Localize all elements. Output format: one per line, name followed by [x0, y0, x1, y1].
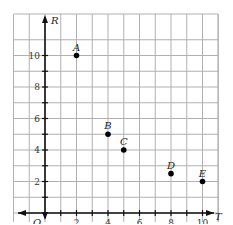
tick-marks: 246810246810 [29, 51, 209, 225]
x-tick-label: 6 [137, 218, 143, 224]
point-marker-icon [121, 147, 127, 153]
y-tick-label: 10 [29, 51, 41, 61]
point-label: A [72, 42, 80, 53]
y-tick-label: 2 [34, 177, 40, 187]
x-axis-arrow-right-icon [206, 210, 214, 216]
point-label: E [198, 168, 207, 179]
x-tick-label: 2 [74, 218, 80, 224]
x-tick-label: 8 [168, 218, 174, 224]
point-label: B [103, 120, 111, 131]
origin-label: O [33, 217, 41, 224]
y-axis-arrow-down-icon [42, 212, 48, 220]
point-marker-icon [105, 131, 111, 137]
y-tick-label: 6 [34, 114, 40, 124]
point-marker-icon [200, 179, 206, 185]
point-label: D [166, 160, 175, 171]
axes: RTO [18, 15, 223, 224]
x-tick-label: 4 [105, 218, 111, 224]
x-axis-label: T [215, 211, 223, 222]
point-label: C [120, 136, 128, 147]
data-point-d: D [166, 160, 175, 177]
scatter-chart: RTO 246810246810 ABCDE [0, 0, 233, 224]
y-axis-arrow-up-icon [42, 15, 48, 23]
point-marker-icon [74, 53, 80, 59]
point-marker-icon [168, 171, 174, 177]
x-tick-label: 10 [197, 218, 209, 224]
y-axis-label: R [50, 15, 59, 26]
y-tick-label: 8 [34, 82, 40, 92]
x-axis-arrow-left-icon [18, 210, 26, 216]
y-tick-label: 4 [34, 145, 40, 155]
